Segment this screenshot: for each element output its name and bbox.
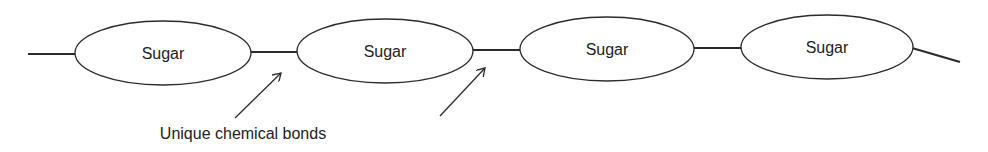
right-chain-tail: [912, 48, 960, 62]
sugar-label: Sugar: [586, 41, 629, 58]
annotation-label: Unique chemical bonds: [160, 125, 326, 142]
sugar-unit-1: Sugar: [75, 21, 251, 85]
sugar-label: Sugar: [142, 45, 185, 62]
sugar-unit-2: Sugar: [297, 19, 473, 83]
arrow-icon: [440, 68, 485, 116]
sugar-label: Sugar: [806, 39, 849, 56]
sugar-label: Sugar: [364, 43, 407, 60]
sugar-unit-3: Sugar: [520, 17, 694, 81]
sugar-unit-4: Sugar: [741, 15, 913, 79]
arrow-icon: [235, 73, 281, 118]
sugar-chain-diagram: Sugar Sugar Sugar Sugar Unique chemical …: [0, 0, 988, 152]
